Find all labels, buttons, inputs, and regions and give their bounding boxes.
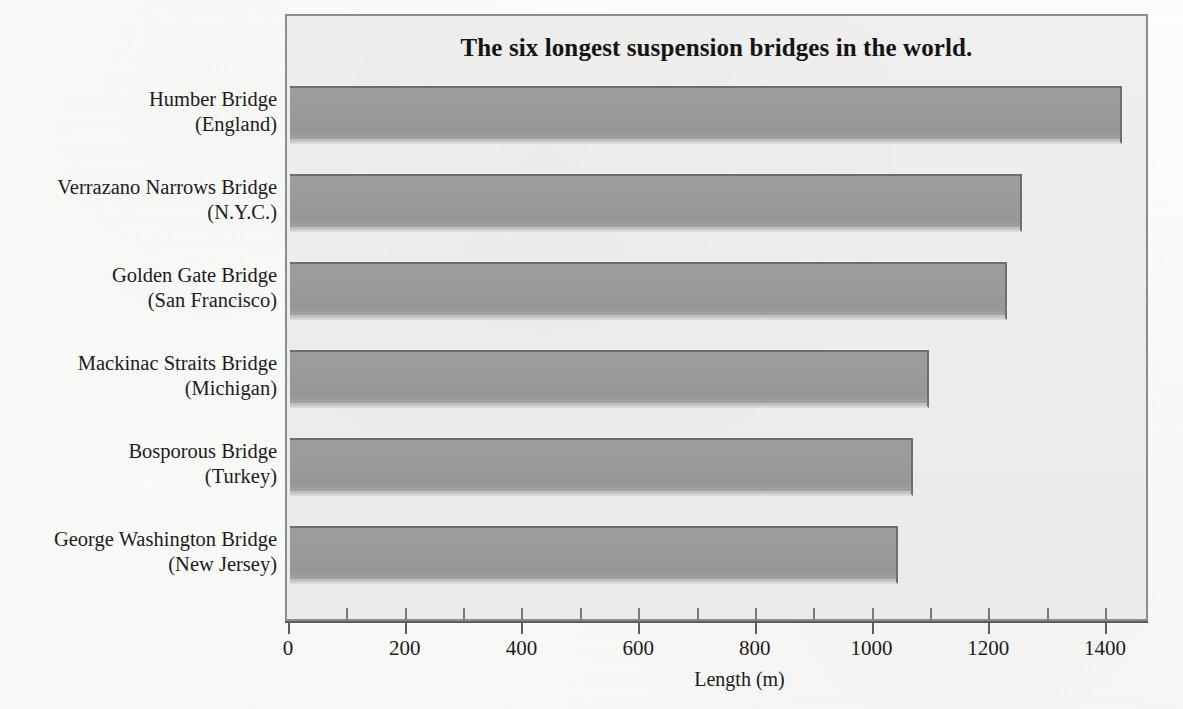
chart-title: The six longest suspension bridges in th…	[287, 34, 1146, 62]
x-tick-1000	[872, 621, 874, 634]
x-tick-800	[755, 621, 757, 634]
bridge-location: (Turkey)	[0, 464, 277, 489]
x-tick-label-600: 600	[622, 636, 654, 661]
bar-3	[290, 262, 1007, 320]
x-tick-inner-1400	[1105, 608, 1107, 620]
x-tick-minor-500	[580, 608, 582, 620]
x-tick-label-400: 400	[506, 636, 538, 661]
x-tick-1200	[988, 621, 990, 634]
bridge-name: George Washington Bridge	[54, 528, 277, 550]
x-tick-inner-200	[405, 608, 407, 620]
x-tick-minor-1300	[1047, 608, 1049, 620]
bar-fill	[290, 262, 1007, 320]
x-axis-title: Length (m)	[0, 668, 1183, 691]
category-label-5: Bosporous Bridge(Turkey)	[0, 439, 277, 489]
x-tick-0	[288, 621, 290, 634]
x-tick-label-200: 200	[389, 636, 421, 661]
bridge-name: Verrazano Narrows Bridge	[57, 176, 277, 198]
x-tick-1400	[1105, 621, 1107, 634]
x-tick-200	[405, 621, 407, 634]
x-axis-title-text: Length (m)	[694, 668, 785, 690]
bridge-location: (England)	[0, 112, 277, 137]
bar-4	[290, 350, 929, 408]
x-tick-minor-900	[813, 608, 815, 620]
x-tick-label-800: 800	[739, 636, 771, 661]
bridge-name: Bosporous Bridge	[128, 440, 277, 462]
category-label-4: Mackinac Straits Bridge(Michigan)	[0, 351, 277, 401]
x-axis-line	[285, 621, 1148, 623]
bar-fill	[290, 350, 929, 408]
plot-area: The six longest suspension bridges in th…	[285, 14, 1148, 621]
bridge-location: (San Francisco)	[0, 288, 277, 313]
bar-1	[290, 86, 1122, 144]
x-tick-400	[521, 621, 523, 634]
category-label-1: Humber Bridge(England)	[0, 87, 277, 137]
category-label-2: Verrazano Narrows Bridge(N.Y.C.)	[0, 175, 277, 225]
category-label-6: George Washington Bridge(New Jersey)	[0, 527, 277, 577]
bar-fill	[290, 438, 913, 496]
x-tick-label-1000: 1000	[851, 636, 893, 661]
x-tick-label-1400: 1400	[1084, 636, 1126, 661]
bar-fill	[290, 174, 1022, 232]
x-tick-label-1200: 1200	[967, 636, 1009, 661]
x-tick-inner-600	[638, 608, 640, 620]
x-tick-minor-700	[697, 608, 699, 620]
category-label-3: Golden Gate Bridge(San Francisco)	[0, 263, 277, 313]
x-tick-600	[638, 621, 640, 634]
x-tick-minor-100	[346, 608, 348, 620]
x-tick-minor-300	[463, 608, 465, 620]
bridge-location: (New Jersey)	[0, 552, 277, 577]
x-tick-inner-400	[521, 608, 523, 620]
x-tick-inner-800	[755, 608, 757, 620]
bridge-name: Mackinac Straits Bridge	[78, 352, 277, 374]
bridge-location: (N.Y.C.)	[0, 200, 277, 225]
bridge-location: (Michigan)	[0, 376, 277, 401]
bar-5	[290, 438, 913, 496]
bar-6	[290, 526, 898, 584]
x-tick-label-0: 0	[283, 636, 294, 661]
bar-fill	[290, 86, 1122, 144]
x-tick-inner-1200	[988, 608, 990, 620]
bar-2	[290, 174, 1022, 232]
x-tick-inner-1000	[872, 608, 874, 620]
x-tick-minor-1100	[930, 608, 932, 620]
bridge-name: Humber Bridge	[149, 88, 277, 110]
bar-fill	[290, 526, 898, 584]
bridge-name: Golden Gate Bridge	[112, 264, 277, 286]
